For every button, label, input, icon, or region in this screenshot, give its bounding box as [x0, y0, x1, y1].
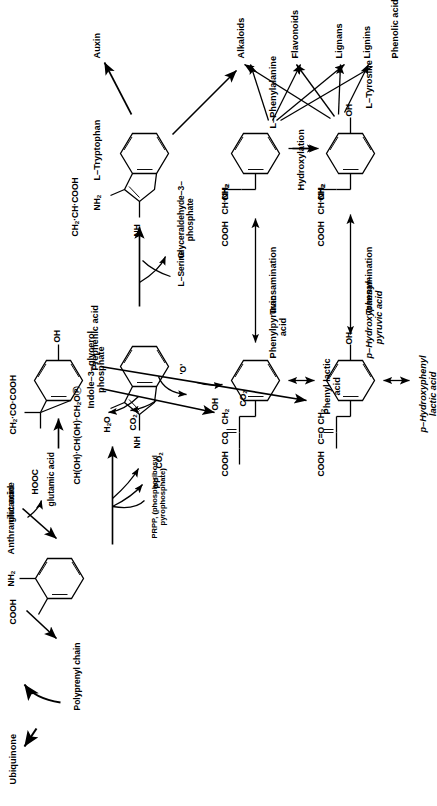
h2o-sub: 2: [104, 422, 111, 425]
h2o-h: H: [101, 426, 111, 432]
phosphate-icon: Ⓟ: [71, 386, 81, 395]
gap-line2: phosphate: [185, 181, 194, 259]
compound-l-phenylalanine: L–Phenylalanine: [268, 55, 278, 128]
nh2-subscript: 2: [8, 570, 15, 573]
co2-subscript: 2: [156, 452, 163, 455]
trp-nh2-text: NH: [91, 198, 101, 210]
arrow-prephenate-to-phenylpyruvate: [100, 388, 214, 412]
formula-tyr-ch2: CH2: [316, 184, 326, 200]
pla-name-line2: acid: [332, 358, 342, 414]
cofactor-glyceraldehyde-3-phosphate: Glyceraldehyde–3– phosphate: [176, 181, 194, 259]
formula-trp-nh: NH: [132, 224, 141, 236]
formula-trp-nh2: NH2: [92, 194, 102, 210]
trp-nh2-sub: 2: [94, 194, 101, 197]
hpla-name-line1: p–Hydroxyphenyl: [418, 355, 428, 432]
co2-text: CO: [153, 455, 163, 468]
byproduct-ppi: PPi: [152, 475, 162, 488]
igp-chain-text: CH(OH)·CH(OH)·CH: [71, 405, 81, 484]
co2-b-text: CO: [127, 417, 137, 430]
oxygen-text: O: [177, 365, 187, 372]
arrow-polyprenyl-to-ubiquinone: [24, 684, 60, 746]
ppa-ch2-text: CH: [219, 412, 229, 424]
formula-prephenate-chain: CH2·CO·COOH: [8, 374, 18, 434]
formula-hppa-co: C=O: [316, 426, 325, 444]
ring-tyrosine: [322, 117, 374, 189]
tyr-ch2-text: CH: [315, 188, 325, 200]
trp-chain-text: CH: [69, 224, 79, 236]
arrow-tryptophan-to-auxin: [104, 62, 131, 114]
product-ubiquinone: Ubiquinone: [8, 733, 18, 784]
formula-ppa-co: CO: [220, 431, 229, 444]
product-alkaloids: Alkaloids: [236, 17, 246, 58]
ppi-subscript: i: [154, 475, 161, 477]
product-auxin: Auxin: [92, 32, 102, 58]
byproduct-co2-hppa: CO2: [238, 390, 248, 406]
igp-chain-tail: O: [71, 395, 81, 402]
arrow-anthranilate-to-igp: [112, 446, 144, 544]
nh2-text: NH: [5, 574, 15, 586]
cofactor-water: H2O: [102, 416, 112, 432]
formula-anthranilate-nh2: NH2: [6, 570, 16, 586]
prephenate-ch: CH: [7, 422, 17, 434]
formula-hppa-ch2: CH2: [316, 408, 326, 424]
product-lignans: Lignans: [334, 23, 344, 58]
ppi-text: PP: [151, 477, 161, 488]
compound-prephenic-acid: Prephenic acid: [90, 305, 100, 370]
formula-tyr-oh: OH: [344, 103, 353, 116]
compound-phenyl-lactic-acid: Phenyl lactic acid: [322, 358, 341, 414]
byproduct-co2-phenylpyruvate: CO2: [128, 414, 138, 430]
phe-ch2-text: CH: [219, 188, 229, 200]
ring-anthranilic: [19, 558, 83, 614]
product-flavonoids: Flavonoids: [290, 10, 300, 59]
reaction-transamination-tyr: Transamination: [364, 246, 374, 314]
hppa-ch2-sub: 2: [318, 408, 325, 411]
arrow-tryptophan-to-alkaloids: [172, 70, 236, 134]
formula-phe-cooh: COOH: [220, 221, 229, 247]
formula-hppa-cooh: COOH: [316, 451, 325, 477]
hpla-name-line2: lactic acid: [428, 355, 437, 432]
compound-hydroxyphenyl-lactic-acid: p–Hydroxyphenyl lactic acid: [418, 355, 437, 432]
compound-l-tryptophan: L–Tryptophan: [92, 119, 102, 180]
formula-trp-sidechain: CH2·CH·COOH: [70, 177, 80, 236]
formula-tyr-cooh: COOH: [316, 221, 325, 247]
arrow-to-polyprenyl: [26, 610, 56, 638]
cofactor-oxygen: 'O': [178, 363, 187, 374]
ring-phenylalanine: [227, 133, 279, 189]
prephenate-hooc: HOOC: [29, 469, 39, 495]
arrow-igp-to-tryptophan: [139, 226, 170, 306]
co2-c-sub: 2: [240, 390, 247, 393]
prephenate-tail: ·CO·COOH: [7, 374, 17, 418]
pla-name-line1: Phenyl lactic: [322, 358, 332, 414]
ring-tryptophan: [110, 133, 168, 217]
product-lignins: Lignins: [362, 25, 372, 58]
tyr-ch2-sub: 2: [318, 184, 325, 187]
formula-anthranilate-cooh: COOH: [8, 599, 17, 625]
formula-igp-nh: NH: [132, 436, 141, 448]
formula-prephenate-oh: OH: [52, 329, 61, 342]
ring-phenylpyruvic: [226, 360, 279, 464]
ppa-ch2-sub: 2: [222, 408, 229, 411]
byproduct-hydroxyl: OH: [210, 397, 219, 410]
ppa-name-line2: acid: [278, 295, 288, 358]
cofactor-glutamic-acid: glutamic acid: [46, 452, 55, 506]
hppa-ch2-text: CH: [315, 412, 325, 424]
prephenate-ch-sub: 2: [10, 418, 17, 421]
compound-l-tyrosine: L–Tyrosine: [364, 60, 374, 108]
formula-ppa-ch2: CH2: [220, 408, 230, 424]
ring-indole-glycerol-phosphate: [0, 346, 168, 806]
trp-chain-tail: ·CH·COOH: [69, 177, 79, 220]
phe-ch2-sub: 2: [222, 184, 229, 187]
reaction-hydroxylation: Hydroxylation: [296, 129, 306, 190]
formula-prephenate: HOOC: [30, 469, 39, 495]
igp-chain-sub: 2: [74, 401, 81, 404]
reaction-transamination-phe: Transamination: [268, 246, 278, 314]
hppa-name-line2: pyruvic acid: [374, 276, 384, 358]
product-phenolic-acids: Phenolic acids: [390, 0, 400, 58]
co2-b-sub: 2: [130, 414, 137, 417]
formula-phe-ch2: CH2: [220, 184, 230, 200]
formula-hppa-oh: OH: [344, 331, 353, 344]
compound-anthranilic-acid: Anthranilic acid: [6, 485, 16, 554]
